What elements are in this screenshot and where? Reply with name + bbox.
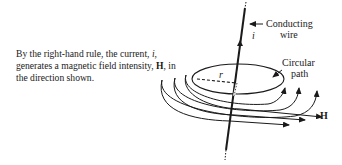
field-label: H <box>320 110 328 121</box>
path-label-line1: Circular <box>282 57 315 68</box>
conducting-wire <box>226 8 245 150</box>
wire-label-line1: Conducting <box>266 18 313 29</box>
wire-label-line2: wire <box>280 29 298 40</box>
wire-dashed-end-top <box>245 2 246 8</box>
circular-path-ellipse <box>192 64 284 94</box>
current-arrow-icon <box>237 40 243 46</box>
path-label-line2: path <box>291 68 308 79</box>
current-label: i <box>252 30 255 41</box>
radius-line <box>197 79 236 83</box>
radius-label: r <box>219 69 223 80</box>
wire-dashed-end-bottom <box>225 150 226 160</box>
field-lines <box>161 75 322 125</box>
right-hand-rule-diagram: r i Conducting wire Circular path H <box>0 0 342 165</box>
